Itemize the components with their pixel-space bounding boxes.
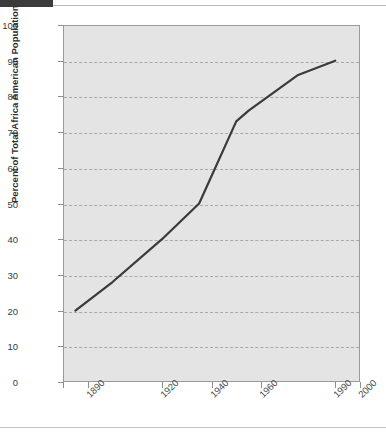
y-tick-label-20: 20 <box>0 305 18 316</box>
y-tick-label-40: 40 <box>0 234 18 245</box>
series-line-percent-population <box>75 61 335 311</box>
x-tick-mark-0 <box>63 382 64 388</box>
data-series-layer <box>63 25 360 382</box>
y-tick-label-10: 10 <box>0 341 18 352</box>
y-tick-label-0: 0 <box>0 377 18 388</box>
footer-divider <box>0 427 386 428</box>
y-axis-title: Percent of Total Africa American Populat… <box>9 5 20 203</box>
y-tick-label-30: 30 <box>0 269 18 280</box>
line-chart-figure: 0102030405060708090100 18901920194019601… <box>0 0 386 439</box>
